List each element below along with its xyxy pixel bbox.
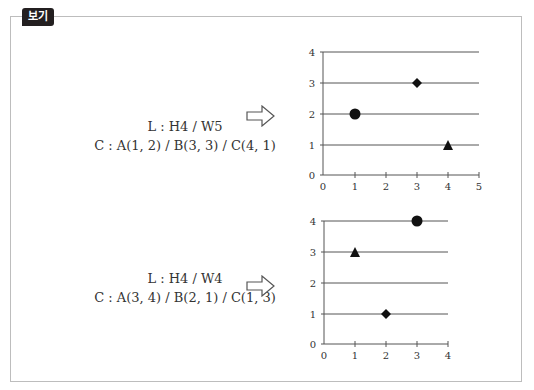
charts: 0 1 2 3 4 5 0 1 2 3 4 0 1 2 3 4 0 (0, 0, 534, 390)
chart-2 (321, 221, 448, 347)
svg-text:2: 2 (383, 181, 389, 192)
svg-text:0: 0 (309, 170, 315, 181)
svg-text:3: 3 (414, 350, 420, 361)
svg-text:4: 4 (309, 47, 315, 58)
svg-text:0: 0 (310, 339, 316, 350)
svg-text:2: 2 (310, 278, 316, 289)
svg-text:1: 1 (310, 309, 316, 320)
point-b-diamond (381, 309, 391, 319)
svg-text:5: 5 (476, 181, 482, 192)
svg-text:2: 2 (383, 350, 389, 361)
svg-text:3: 3 (309, 78, 315, 89)
svg-text:0: 0 (320, 181, 326, 192)
svg-text:1: 1 (352, 350, 358, 361)
chart-1 (320, 52, 479, 178)
svg-text:3: 3 (310, 247, 316, 258)
svg-text:2: 2 (309, 109, 315, 120)
point-b-diamond (412, 78, 422, 88)
svg-text:4: 4 (310, 216, 316, 227)
point-a-circle (412, 216, 423, 227)
svg-text:0: 0 (321, 350, 327, 361)
svg-text:1: 1 (352, 181, 358, 192)
svg-text:3: 3 (414, 181, 420, 192)
svg-text:4: 4 (445, 350, 451, 361)
point-a-circle (350, 109, 361, 120)
svg-text:4: 4 (445, 181, 451, 192)
svg-text:1: 1 (309, 140, 315, 151)
